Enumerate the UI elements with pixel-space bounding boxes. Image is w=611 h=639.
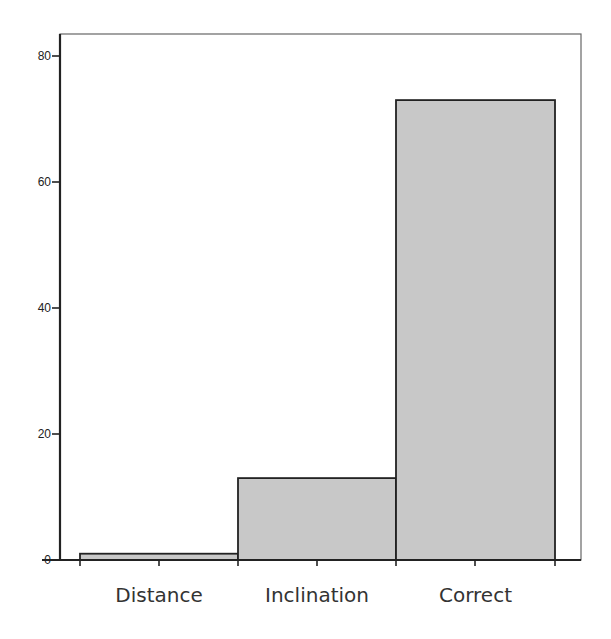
y-tick-label: 80 (38, 49, 52, 63)
x-label-inclination: Inclination (265, 583, 369, 607)
bar-chart: 020406080 DistanceInclinationCorrect (0, 0, 611, 639)
bar-correct (396, 100, 555, 560)
x-labels: DistanceInclinationCorrect (115, 583, 512, 607)
y-tick-label: 20 (38, 427, 52, 441)
y-tick-label: 60 (38, 175, 52, 189)
x-label-distance: Distance (115, 583, 202, 607)
y-tick-label: 40 (38, 301, 52, 315)
y-tick-label: 0 (44, 553, 51, 567)
y-ticks: 020406080 (38, 49, 60, 567)
bar-inclination (238, 478, 396, 560)
x-label-correct: Correct (439, 583, 512, 607)
